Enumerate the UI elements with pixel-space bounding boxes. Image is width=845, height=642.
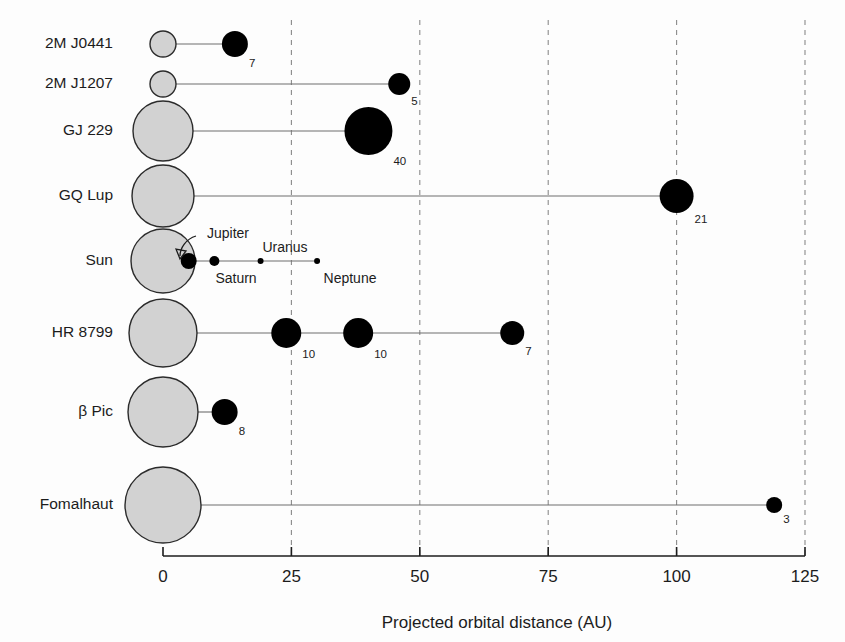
row-labels: 2M J04412M J1207GJ 229GQ LupSunHR 8799β … bbox=[40, 34, 114, 512]
chart-canvas: 7540211010783 2M J04412M J1207GJ 229GQ L… bbox=[0, 0, 845, 642]
companion-sun-2 bbox=[209, 256, 219, 266]
companion-sun-4 bbox=[314, 258, 320, 264]
companion-gj-229-1 bbox=[344, 107, 392, 155]
row-label-2m-j1207: 2M J1207 bbox=[45, 74, 113, 91]
value-label-2m-j1207-1: 5 bbox=[411, 95, 417, 107]
planet-label-jupiter: Jupiter bbox=[207, 225, 249, 241]
host-star-fomalhaut bbox=[125, 467, 201, 543]
value-label-hr-8799-1: 10 bbox=[302, 348, 315, 360]
row-label-hr-8799: HR 8799 bbox=[52, 323, 113, 340]
x-tick-label-0: 0 bbox=[158, 567, 167, 586]
gridlines bbox=[291, 20, 805, 556]
value-label-β-pic-1: 8 bbox=[239, 425, 245, 437]
companion-value-labels: 7540211010783 bbox=[239, 57, 790, 525]
host-star-gq-lup bbox=[132, 165, 194, 227]
x-tick-label-25: 25 bbox=[282, 567, 301, 586]
companion-fomalhaut-1 bbox=[766, 497, 782, 513]
x-tick-label-100: 100 bbox=[662, 567, 690, 586]
host-star-circles bbox=[125, 31, 201, 543]
companion-hr-8799-3 bbox=[500, 321, 524, 345]
connector-lines bbox=[174, 44, 774, 505]
planet-label-saturn: Saturn bbox=[215, 270, 256, 286]
value-label-gq-lup-1: 21 bbox=[695, 213, 708, 225]
solar-system-annotations: JupiterSaturnUranusNeptune bbox=[176, 225, 377, 286]
row-label-β-pic: β Pic bbox=[78, 402, 113, 419]
x-tick-label-75: 75 bbox=[539, 567, 558, 586]
row-label-sun: Sun bbox=[85, 251, 113, 268]
value-label-gj-229-1: 40 bbox=[393, 155, 406, 167]
value-label-hr-8799-3: 7 bbox=[525, 345, 531, 357]
value-label-2m-j0441-1: 7 bbox=[249, 57, 255, 69]
host-star-2m-j0441 bbox=[150, 31, 176, 57]
value-label-fomalhaut-1: 3 bbox=[783, 513, 789, 525]
host-star-β-pic bbox=[128, 377, 198, 447]
host-star-hr-8799 bbox=[129, 299, 197, 367]
planet-label-uranus: Uranus bbox=[262, 239, 307, 255]
companion-hr-8799-1 bbox=[271, 318, 301, 348]
host-star-2m-j1207 bbox=[150, 71, 176, 97]
x-tick-label-50: 50 bbox=[410, 567, 429, 586]
orbital-distance-figure: 7540211010783 2M J04412M J1207GJ 229GQ L… bbox=[0, 0, 845, 642]
companion-β-pic-1 bbox=[212, 399, 238, 425]
row-label-fomalhaut: Fomalhaut bbox=[40, 495, 114, 512]
companion-gq-lup-1 bbox=[660, 179, 694, 213]
row-label-gq-lup: GQ Lup bbox=[59, 186, 113, 203]
value-label-hr-8799-2: 10 bbox=[374, 348, 387, 360]
companion-2m-j1207-1 bbox=[388, 73, 410, 95]
x-axis-title: Projected orbital distance (AU) bbox=[382, 613, 613, 632]
row-label-gj-229: GJ 229 bbox=[63, 121, 113, 138]
row-label-2m-j0441: 2M J0441 bbox=[45, 34, 113, 51]
companion-2m-j0441-1 bbox=[222, 31, 248, 57]
companion-dots bbox=[181, 31, 783, 513]
companion-sun-3 bbox=[258, 258, 264, 264]
companion-hr-8799-2 bbox=[343, 318, 373, 348]
x-axis: 0255075100125 bbox=[158, 547, 819, 586]
x-tick-label-125: 125 bbox=[791, 567, 819, 586]
host-star-gj-229 bbox=[133, 101, 193, 161]
planet-label-neptune: Neptune bbox=[324, 270, 377, 286]
